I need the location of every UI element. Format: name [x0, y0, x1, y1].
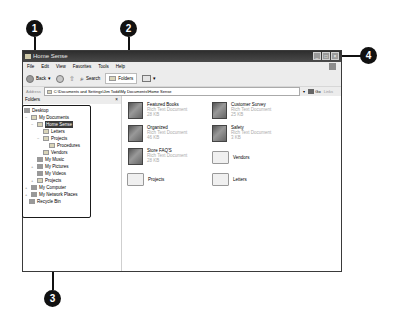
folders-pane-title: Folders	[25, 97, 40, 102]
tree-item-projects[interactable]: −Projects	[37, 135, 67, 142]
recycle-bin-icon	[29, 199, 35, 204]
callout-3: 3	[44, 290, 61, 307]
folders-button[interactable]: Folders	[105, 73, 137, 84]
close-pane-button[interactable]: ×	[115, 96, 118, 104]
file-size: 46 KB	[147, 135, 187, 140]
go-arrow-icon	[308, 89, 314, 94]
expand-toggle[interactable]: +	[31, 163, 35, 170]
collapse-toggle[interactable]: −	[37, 135, 41, 142]
menu-tools[interactable]: Tools	[98, 62, 109, 71]
file-list: Featured BooksRich Text Document28 KB Cu…	[122, 96, 341, 271]
chevron-down-icon: ▾	[153, 76, 156, 81]
file-item-organized[interactable]: OrganizedRich Text Document46 KB	[128, 125, 187, 142]
go-button[interactable]: Go	[308, 89, 320, 94]
tree-item-recycle-bin[interactable]: Recycle Bin	[29, 198, 61, 205]
rich-text-document-icon	[212, 125, 227, 142]
up-folder-icon: ⇧	[69, 75, 75, 83]
folder-icon	[43, 129, 49, 134]
menu-bar: File Edit View Favorites Tools Help	[23, 62, 341, 71]
search-label: Search	[86, 76, 100, 81]
folder-icon	[212, 173, 229, 186]
tree-item-desktop[interactable]: Desktop	[24, 107, 49, 114]
file-item-store-faqs[interactable]: Store FAQ'SRich Text Document28 KB	[128, 148, 187, 165]
tree-item-my-pictures[interactable]: +My Pictures	[31, 163, 69, 170]
title-bar[interactable]: Home Sense _ □ ×	[23, 51, 341, 62]
network-icon	[31, 192, 37, 197]
tree-item-my-videos[interactable]: My Videos	[37, 170, 66, 177]
back-button[interactable]: Back ▾	[26, 75, 51, 83]
folder-icon	[49, 143, 55, 148]
rich-text-document-icon	[128, 148, 143, 165]
windows-logo-icon	[329, 63, 336, 70]
file-item-featured-books[interactable]: Featured BooksRich Text Document28 KB	[128, 102, 187, 119]
tree-item-my-computer[interactable]: +My Computer	[25, 184, 66, 191]
minimize-button[interactable]: _	[313, 52, 321, 60]
search-icon: ⌕	[80, 75, 84, 83]
file-size: 3 KB	[231, 135, 271, 140]
search-button[interactable]: ⌕ Search	[80, 75, 100, 83]
collapse-toggle[interactable]: −	[31, 121, 35, 128]
folders-label: Folders	[118, 76, 133, 81]
callout-4-leader	[340, 55, 362, 57]
collapse-toggle[interactable]: −	[25, 114, 29, 121]
folder-icon	[25, 54, 31, 59]
tree-item-procedures[interactable]: Procedures	[49, 142, 80, 149]
rich-text-document-icon	[212, 102, 227, 119]
callout-1: 1	[26, 20, 43, 37]
menu-help[interactable]: Help	[116, 62, 125, 71]
folder-icon	[31, 115, 37, 120]
address-dropdown-icon[interactable]: ▾	[303, 89, 305, 94]
folder-name: Letters	[233, 177, 247, 182]
file-size: 28 KB	[147, 158, 187, 163]
expand-toggle[interactable]: +	[25, 184, 29, 191]
callout-1-leader	[34, 37, 36, 51]
expand-toggle[interactable]: +	[31, 177, 35, 184]
folder-icon	[47, 90, 52, 94]
file-size: 28 KB	[147, 112, 187, 117]
tree-item-my-network-places[interactable]: +My Network Places	[25, 191, 78, 198]
menu-view[interactable]: View	[56, 62, 66, 71]
folder-icon	[43, 136, 49, 141]
file-item-safety[interactable]: SafetyRich Text Document3 KB	[212, 125, 271, 142]
rich-text-document-icon	[128, 102, 143, 119]
callout-2: 2	[120, 20, 137, 37]
maximize-button[interactable]: □	[322, 52, 330, 60]
tree-item-projects-2[interactable]: +Projects	[31, 177, 61, 184]
rich-text-document-icon	[128, 125, 143, 142]
pictures-folder-icon	[37, 164, 43, 169]
menu-favorites[interactable]: Favorites	[73, 62, 92, 71]
folder-item-projects[interactable]: Projects	[127, 171, 164, 186]
tree-item-home-sense[interactable]: −Home Sense	[31, 121, 73, 128]
window-controls: _ □ ×	[313, 52, 339, 60]
folder-item-vendors[interactable]: Vendors	[212, 149, 250, 164]
views-button[interactable]: ▾	[142, 75, 156, 82]
address-input[interactable]: C:\Documents and Settings\Jim Todd\My Do…	[44, 87, 301, 96]
toolbar: Back ▾ ⇧ ⌕ Search Folders ▾	[23, 71, 341, 87]
videos-folder-icon	[37, 171, 43, 176]
tree-item-letters[interactable]: Letters	[43, 128, 65, 135]
folder-icon	[43, 150, 49, 155]
explorer-window: Home Sense _ □ × File Edit View Favorite…	[22, 50, 342, 272]
desktop-icon	[24, 108, 30, 113]
close-button[interactable]: ×	[331, 52, 339, 60]
go-label: Go	[315, 89, 320, 94]
menu-edit[interactable]: Edit	[41, 62, 49, 71]
folder-tree: Desktop −My Documents −Home Sense Letter…	[22, 105, 91, 218]
folder-name: Projects	[148, 177, 164, 182]
forward-arrow-icon	[56, 75, 64, 83]
links-button[interactable]: Links	[324, 89, 333, 94]
folders-icon	[109, 76, 116, 81]
expand-toggle[interactable]: +	[25, 191, 29, 198]
forward-button[interactable]	[56, 75, 64, 83]
up-button[interactable]: ⇧	[69, 75, 75, 83]
tree-item-my-documents[interactable]: −My Documents	[25, 114, 69, 121]
window-title: Home Sense	[33, 53, 68, 59]
folder-item-letters[interactable]: Letters	[212, 171, 247, 186]
callout-4: 4	[360, 47, 377, 64]
tree-item-vendors[interactable]: Vendors	[43, 149, 68, 156]
address-bar: Address C:\Documents and Settings\Jim To…	[23, 87, 341, 96]
menu-file[interactable]: File	[27, 62, 34, 71]
views-icon	[142, 75, 151, 82]
file-item-customer-survey[interactable]: Customer SurveyRich Text Document25 KB	[212, 102, 271, 119]
tree-item-my-music[interactable]: My Music	[37, 156, 64, 163]
